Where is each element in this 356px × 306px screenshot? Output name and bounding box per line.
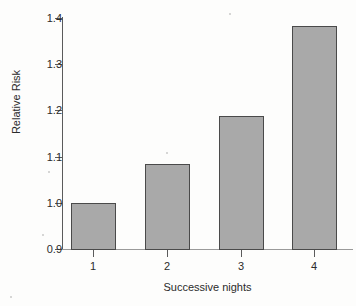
bar [71,203,116,250]
bar-chart-figure: 0.91.01.11.21.31.4 1234 Relative Risk Su… [0,0,356,306]
x-axis-title: Successive nights [62,281,353,293]
y-axis-line [62,17,63,250]
y-tick-label: 1.0 [36,198,62,209]
bar [145,164,190,250]
y-tick-label: 1.2 [36,105,62,116]
y-tick-label: 1.3 [36,59,62,70]
y-tick-label: 1.4 [36,13,62,24]
x-tick-label: 3 [221,261,261,272]
x-tick-label: 1 [73,261,113,272]
scan-speckle [42,234,44,236]
scan-speckle [166,152,168,154]
scan-speckle [229,13,231,15]
y-tick-label: 1.1 [36,152,62,163]
x-tick-label: 4 [294,261,334,272]
x-tick-mark [93,249,94,257]
x-tick-label: 2 [147,261,187,272]
y-tick-label: 0.9 [36,244,62,255]
x-tick-mark [314,249,315,257]
x-tick-mark [167,249,168,257]
scan-speckle [48,171,50,173]
bar [292,26,337,250]
y-axis-title: Relative Risk [10,52,22,152]
scan-speckle [10,296,12,298]
x-tick-mark [241,249,242,257]
bar [219,116,264,250]
